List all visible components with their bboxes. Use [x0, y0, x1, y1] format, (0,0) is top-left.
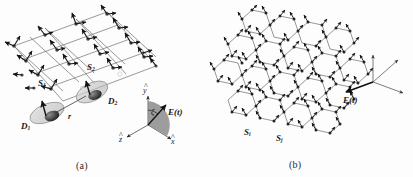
panel-a-square-lattice: S1 S2 D1 D2 r E(t) ζ ^ y ^ [0, 0, 207, 177]
label-detector-2: D2 [108, 97, 117, 107]
label-spin-j: Sj [276, 134, 283, 144]
caption-panel-a: (a) [76, 160, 88, 171]
spin-sites [5, 5, 158, 91]
panel-b-honeycomb-lattice: Si Sj E(t) [200, 0, 413, 177]
coordinate-triad-b [346, 55, 403, 93]
honeycomb-lattice-mesh [214, 10, 368, 133]
axis-label-x: ^ x [171, 137, 175, 146]
label-angle-zeta: ζ [151, 108, 154, 117]
label-spin-1: S1 [38, 79, 46, 89]
label-field-b: E(t) [343, 96, 358, 105]
panel-b-graphic [200, 0, 413, 177]
label-spin-2: S2 [87, 63, 95, 73]
label-detector-1: D1 [21, 122, 30, 132]
label-field-a: E(t) [168, 108, 183, 117]
coordinate-triad-a [127, 96, 171, 139]
panel-a-graphic [0, 0, 207, 177]
honeycomb-spin-sites [210, 5, 373, 135]
figure-container: S1 S2 D1 D2 r E(t) ζ ^ y ^ [0, 0, 413, 177]
label-spin-i: Si [244, 128, 251, 138]
axis-label-y: ^ y [143, 86, 147, 95]
axis-label-z: ^ z [119, 135, 122, 144]
caption-panel-b: (b) [289, 159, 301, 170]
label-separation-r: r [68, 113, 71, 121]
detector-d1-region [27, 98, 67, 128]
